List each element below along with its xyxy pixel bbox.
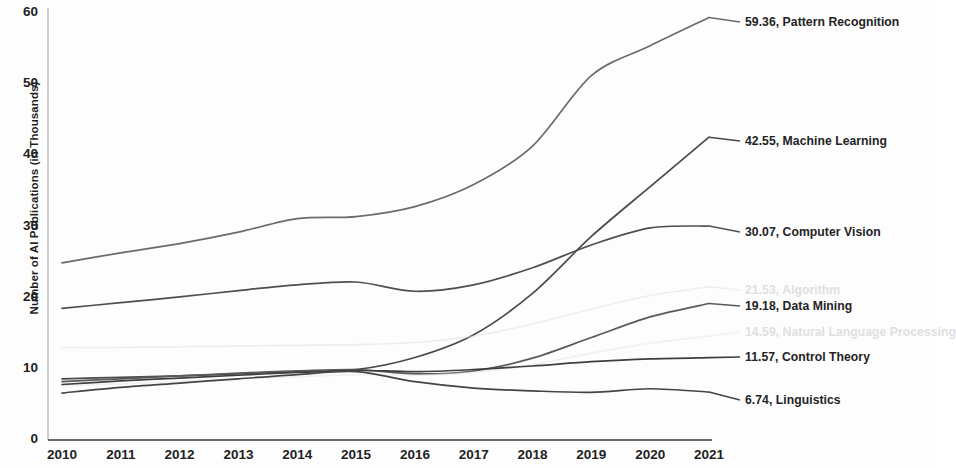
end-label-machine-learning: 42.55, Machine Learning [745, 134, 887, 148]
end-label-data-mining: 19.18, Data Mining [745, 299, 852, 313]
leader-line-linguistics [709, 392, 740, 400]
series-line-algorithm [62, 287, 709, 348]
leader-line-control-theory [709, 357, 740, 358]
leader-line-data-mining [709, 304, 740, 307]
end-label-algorithm: 21.53, Algorithm [745, 283, 840, 297]
label-leader-lines [709, 18, 740, 400]
leader-line-machine-learning [709, 137, 740, 141]
series-line-machine-learning [62, 137, 709, 379]
series-line-pattern-recognition [62, 18, 709, 263]
series-line-data-mining [62, 304, 709, 382]
leader-line-computer-vision [709, 226, 740, 232]
series-line-computer-vision [62, 226, 709, 308]
end-label-natural-language-processing: 14.59, Natural Language Processing [745, 325, 956, 339]
end-label-control-theory: 11.57, Control Theory [745, 350, 870, 364]
end-label-computer-vision: 30.07, Computer Vision [745, 225, 881, 239]
leader-line-pattern-recognition [709, 18, 740, 22]
end-label-pattern-recognition: 59.36, Pattern Recognition [745, 15, 899, 29]
series-lines [62, 18, 709, 393]
end-label-linguistics: 6.74, Linguistics [745, 393, 841, 407]
leader-line-natural-language-processing [709, 332, 740, 336]
series-line-control-theory [62, 358, 709, 385]
leader-line-algorithm [709, 287, 740, 290]
